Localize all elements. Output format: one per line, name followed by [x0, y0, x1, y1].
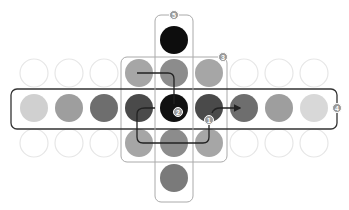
empty-circle [300, 59, 328, 87]
frame-badge-4: 4 [333, 104, 342, 113]
filled-circle [90, 94, 118, 122]
step-badge-1-label: 1 [207, 117, 211, 124]
filled-circle [300, 94, 328, 122]
frame-badge-5: 5 [170, 11, 179, 20]
empty-circle [20, 129, 48, 157]
empty-circle [20, 59, 48, 87]
empty-circle [265, 59, 293, 87]
filled-circle [55, 94, 83, 122]
filled-circle [160, 26, 188, 54]
empty-circle [265, 129, 293, 157]
empty-circle [55, 129, 83, 157]
filled-circle [160, 164, 188, 192]
empty-circle [230, 129, 258, 157]
frame-badge-3-label: 3 [221, 54, 225, 61]
peg-grid-diagram: 34512 [0, 0, 349, 210]
empty-circle [55, 59, 83, 87]
empty-circle [230, 59, 258, 87]
empty-circle [90, 129, 118, 157]
step-badge-1: 1 [205, 116, 214, 125]
frame-badge-4-label: 4 [335, 105, 339, 112]
empty-circle [300, 129, 328, 157]
step-badge-2: 2 [174, 108, 183, 117]
path-group [137, 73, 240, 143]
filled-circle [265, 94, 293, 122]
frame-badge-5-label: 5 [172, 12, 176, 19]
filled-circle [195, 59, 223, 87]
step-badge-2-label: 2 [176, 109, 180, 116]
empty-circle [90, 59, 118, 87]
frame-badge-3: 3 [219, 53, 228, 62]
filled-circle [20, 94, 48, 122]
